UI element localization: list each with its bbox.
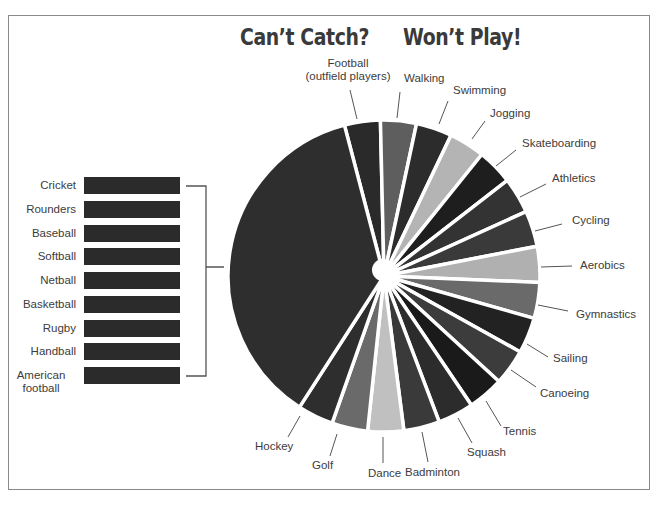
- leader-line: [535, 224, 562, 231]
- pie-chart: Football(outfield players)WalkingSwimmin…: [0, 0, 664, 505]
- slice-label: Aerobics: [580, 259, 625, 271]
- slice-label: Walking: [404, 72, 444, 84]
- slice-label: Athletics: [552, 172, 596, 184]
- slice-label: Squash: [467, 446, 506, 458]
- pie-hub: [372, 259, 394, 281]
- slice-label: Sailing: [553, 352, 588, 364]
- leader-line: [288, 416, 300, 437]
- slice-label: Badminton: [405, 466, 460, 478]
- leader-line: [538, 305, 568, 311]
- leader-line: [496, 150, 516, 166]
- leader-line: [486, 401, 501, 426]
- leader-line: [439, 101, 448, 124]
- leader-line: [458, 418, 472, 443]
- leader-line: [422, 432, 428, 462]
- leader-line: [472, 121, 485, 139]
- leader-line: [527, 344, 548, 357]
- slice-label: Cycling: [572, 214, 610, 226]
- slice-label: Tennis: [503, 425, 536, 437]
- leader-line: [511, 370, 536, 387]
- leader-line: [350, 90, 357, 119]
- leader-line: [520, 184, 546, 197]
- slice-label: Hockey: [255, 440, 294, 452]
- slice-label: Jogging: [490, 107, 530, 119]
- leader-line: [397, 92, 400, 118]
- slice-label: Swimming: [453, 84, 506, 96]
- slice-label: Skateboarding: [522, 137, 596, 149]
- slice-label: Football(outfield players): [305, 57, 390, 82]
- leader-line: [330, 434, 337, 456]
- slice-label: Golf: [312, 459, 334, 471]
- leader-line: [541, 266, 572, 267]
- slice-label: Canoeing: [540, 387, 589, 399]
- pie-slices: [228, 120, 540, 432]
- slice-label: Dance: [368, 467, 401, 479]
- legend-bracket: [186, 186, 224, 376]
- slice-label: Gymnastics: [576, 308, 636, 320]
